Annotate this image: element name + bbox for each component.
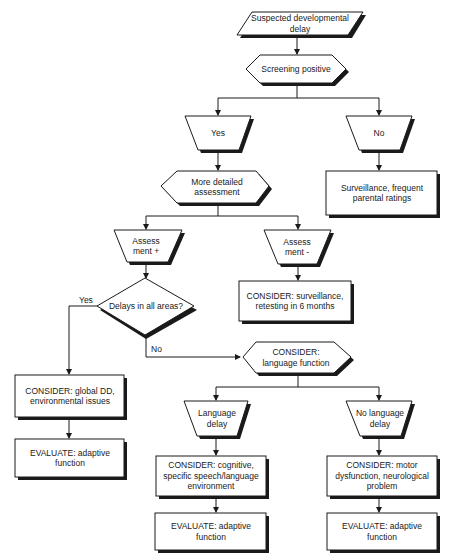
edge-label-yes: Yes: [79, 295, 93, 305]
label-consider-cognitive: CONSIDER: cognitive, specific speech/lan…: [158, 456, 264, 496]
label-delays-all-areas: Delays in all areas?: [104, 296, 188, 316]
label-evaluate-left: EVALUATE: adaptive function: [22, 439, 118, 477]
label-evaluate-mid: EVALUATE: adaptive function: [166, 513, 256, 550]
label-surveillance: Surveillance, frequent parental ratings: [340, 171, 424, 215]
label-language-delay: Language delay: [194, 401, 240, 436]
label-consider-motor: CONSIDER: motor dysfunction, neurologica…: [332, 456, 432, 496]
label-evaluate-right: EVALUATE: adaptive function: [336, 513, 428, 550]
label-assessment-plus: Assess ment +: [125, 230, 167, 262]
label-consider-retesting: CONSIDER: surveillance, retesting in 6 m…: [239, 281, 351, 321]
label-more-detailed-assessment: More detailed assessment: [177, 171, 257, 203]
label-consider-global-dd: CONSIDER: global DD, environmental issue…: [22, 375, 118, 417]
label-screening-no: No: [351, 116, 407, 150]
label-screening-positive: Screening positive: [252, 55, 340, 83]
label-suspected-delay: Suspected developmental delay: [244, 12, 356, 35]
edge-label-no: No: [151, 344, 162, 354]
label-consider-language: CONSIDER: language function: [258, 342, 334, 373]
label-screening-yes: Yes: [190, 116, 246, 150]
label-assessment-minus: Assess ment -: [276, 230, 318, 264]
label-no-language-delay: No language delay: [352, 401, 408, 436]
